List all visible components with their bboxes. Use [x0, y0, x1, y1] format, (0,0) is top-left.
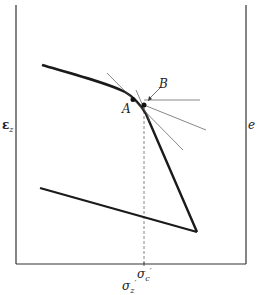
point-a-label: A — [122, 103, 131, 115]
point-a-marker — [131, 97, 136, 102]
tangent-line-upper — [107, 73, 183, 150]
unloading-line — [40, 188, 197, 232]
left-axis-label: εz — [2, 119, 14, 134]
loading-curve — [42, 65, 197, 232]
bisector-line — [144, 105, 206, 130]
point-b-label: B — [159, 78, 168, 90]
point-b-marker — [142, 103, 147, 108]
sigma-c-label: σc′ — [137, 267, 152, 283]
x-axis-label: σz′ — [122, 279, 136, 295]
right-axis-label: e — [248, 119, 255, 131]
